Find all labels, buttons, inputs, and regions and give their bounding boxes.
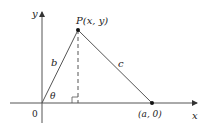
point-p — [76, 28, 80, 32]
x-axis-label: x — [192, 110, 198, 121]
origin-label: 0 — [32, 109, 38, 119]
side-b — [42, 30, 78, 103]
point-a-label: (a, 0) — [138, 109, 162, 119]
point-p-label: P(x, y) — [75, 15, 108, 26]
point-a — [150, 101, 154, 105]
side-c — [78, 30, 152, 103]
y-axis-label: y — [31, 8, 38, 19]
side-b-label: b — [51, 57, 57, 68]
side-c-label: c — [118, 58, 124, 69]
angle-theta-label: θ — [50, 91, 56, 101]
diagram-canvas: y x 0 P(x, y) b c θ (a, 0) — [0, 0, 203, 130]
triangle-diagram: y x 0 P(x, y) b c θ (a, 0) — [0, 0, 203, 130]
right-angle-mark — [72, 97, 78, 103]
